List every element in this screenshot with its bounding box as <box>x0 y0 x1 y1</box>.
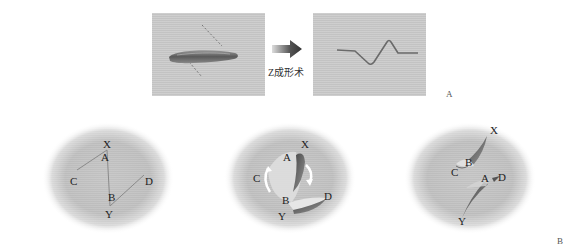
label-a: A <box>101 152 109 163</box>
figure-letter-b: B <box>557 236 563 246</box>
diagram-step-3 <box>404 122 536 234</box>
label-d: D <box>145 176 153 187</box>
label-d: D <box>324 191 332 202</box>
label-c: C <box>70 176 77 187</box>
label-x: X <box>301 139 309 150</box>
label-y: Y <box>278 211 286 222</box>
figure-letter-a: A <box>446 89 453 99</box>
label-x: X <box>490 125 498 136</box>
transform-arrow-icon <box>272 40 302 58</box>
label-x: X <box>103 139 111 150</box>
label-a: A <box>481 173 489 184</box>
label-y: Y <box>105 209 113 220</box>
diagram-step-2 <box>224 122 356 234</box>
z-plasty-caption: Z成形术 <box>268 64 304 79</box>
label-c: C <box>451 167 458 178</box>
linear-scar-illustration <box>152 13 265 96</box>
label-c: C <box>253 173 260 184</box>
label-y: Y <box>458 216 466 227</box>
zigzag-scar-illustration <box>313 13 426 96</box>
label-d: D <box>498 172 506 183</box>
scar-before-photo <box>152 13 265 96</box>
label-b: B <box>465 157 472 168</box>
label-b: B <box>108 192 115 203</box>
label-a: A <box>283 152 291 163</box>
label-b: B <box>282 195 289 206</box>
scar-after-photo <box>313 13 426 96</box>
